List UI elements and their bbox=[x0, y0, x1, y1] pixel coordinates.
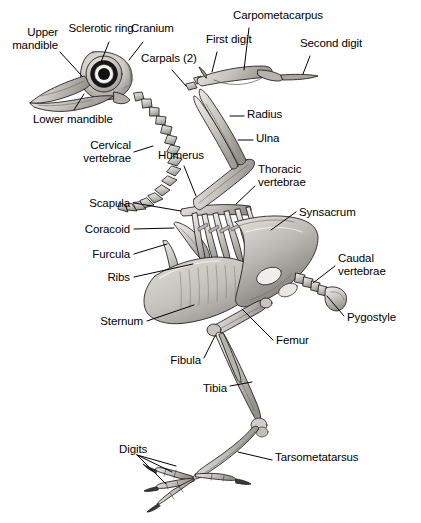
fibula-bone bbox=[219, 333, 241, 382]
label-caudal-vertebrae-line1: Caudal bbox=[338, 252, 374, 265]
label-carpometacarpus: Carpometacarpus bbox=[233, 9, 323, 22]
label-furcula: Furcula bbox=[92, 248, 130, 261]
label-synsacrum: Synsacrum bbox=[299, 206, 356, 219]
label-second-digit: Second digit bbox=[300, 37, 362, 50]
label-scapula: Scapula bbox=[89, 197, 130, 210]
label-digits: Digits bbox=[119, 443, 147, 456]
label-cervical-vertebrae-line2: vertebrae bbox=[83, 152, 131, 165]
label-tarsometatarsus: Tarsometatarsus bbox=[275, 451, 359, 464]
label-upper-mandible-line1: Upper bbox=[27, 26, 58, 39]
second-digit-bone bbox=[281, 74, 318, 80]
ulna-bone bbox=[199, 89, 246, 165]
tarsometatarsus-bone bbox=[193, 426, 259, 479]
label-thoracic-vertebrae-line2: vertebrae bbox=[258, 176, 306, 189]
label-upper-mandible-line2: mandible bbox=[12, 39, 58, 52]
label-pygostyle: Pygostyle bbox=[347, 311, 396, 324]
caudal-vertebrae-bone bbox=[295, 273, 327, 296]
sclerotic-ring-bone bbox=[86, 56, 122, 92]
synsacrum-bone bbox=[235, 216, 318, 307]
label-caudal-vertebrae-line2: vertebrae bbox=[338, 265, 386, 278]
label-carpals: Carpals (2) bbox=[141, 52, 197, 65]
label-femur: Femur bbox=[276, 334, 309, 347]
label-fibula: Fibula bbox=[170, 354, 201, 367]
label-sclerotic-ring: Sclerotic ring bbox=[68, 22, 133, 35]
label-tibia: Tibia bbox=[203, 382, 227, 395]
label-coracoid: Coracoid bbox=[85, 223, 130, 236]
label-radius: Radius bbox=[247, 108, 282, 121]
label-ribs: Ribs bbox=[107, 271, 130, 284]
label-lower-mandible: Lower mandible bbox=[33, 113, 113, 126]
label-ulna: Ulna bbox=[256, 132, 279, 145]
label-humerus: Humerus bbox=[158, 149, 204, 162]
digits-bone bbox=[143, 464, 251, 512]
label-cervical-vertebrae-line1: Cervical bbox=[90, 139, 131, 152]
label-sternum: Sternum bbox=[100, 315, 143, 328]
bird-skeleton-figure: Bird skeleton labeled anatomical diagram bbox=[0, 0, 421, 523]
pygostyle-bone bbox=[325, 287, 347, 311]
label-thoracic-vertebrae-line1: Thoracic bbox=[258, 163, 301, 176]
carpometacarpus-bone bbox=[197, 66, 283, 86]
label-first-digit: First digit bbox=[206, 33, 252, 46]
label-cranium: Cranium bbox=[131, 22, 174, 35]
